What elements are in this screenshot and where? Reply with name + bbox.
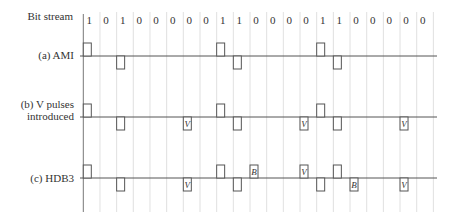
bit-value: 1	[337, 14, 343, 26]
bit-value: 0	[187, 14, 193, 26]
bit-value: 0	[287, 14, 293, 26]
pulse-negative	[233, 56, 241, 69]
bit-value: 0	[403, 14, 409, 26]
bit-value: 0	[137, 14, 143, 26]
pulse-positive	[217, 104, 225, 117]
pulse-negative	[233, 178, 241, 191]
bit-value: 0	[153, 14, 159, 26]
pulse-negative	[333, 117, 341, 130]
pulse-negative	[317, 178, 325, 191]
bit-value: 0	[353, 14, 359, 26]
pulse-negative	[333, 56, 341, 69]
bit-value: 1	[87, 14, 93, 26]
bit-value: 1	[237, 14, 243, 26]
pulse-negative	[117, 56, 125, 69]
pulse-positive	[333, 165, 341, 178]
pulse-positive	[83, 104, 91, 117]
bit-value: 1	[220, 14, 226, 26]
bit-value: 0	[420, 14, 426, 26]
bit-value: 0	[170, 14, 176, 26]
pulse-negative	[117, 178, 125, 191]
bit-value: 0	[370, 14, 376, 26]
pulse-positive	[83, 165, 91, 178]
bipolar-marker: B	[251, 167, 257, 177]
hdb3-encoding-diagram: Bit stream (a) AMI (b) V pulses introduc…	[0, 0, 450, 224]
bit-value: 0	[303, 14, 309, 26]
bit-value: 0	[270, 14, 276, 26]
pulse-negative	[233, 117, 241, 130]
bit-value: 1	[120, 14, 126, 26]
bit-value: 0	[387, 14, 393, 26]
pulse-positive	[317, 43, 325, 56]
pulse-positive	[217, 43, 225, 56]
bipolar-marker: B	[351, 180, 357, 190]
bit-value: 0	[103, 14, 109, 26]
pulse-positive	[217, 165, 225, 178]
bit-value: 0	[253, 14, 259, 26]
waveform-plot: 101000001100001100000VVVVBVBV	[0, 0, 450, 224]
bit-value: 0	[203, 14, 209, 26]
pulse-positive	[317, 104, 325, 117]
bit-value: 1	[320, 14, 326, 26]
pulse-positive	[83, 43, 91, 56]
pulse-negative	[117, 117, 125, 130]
